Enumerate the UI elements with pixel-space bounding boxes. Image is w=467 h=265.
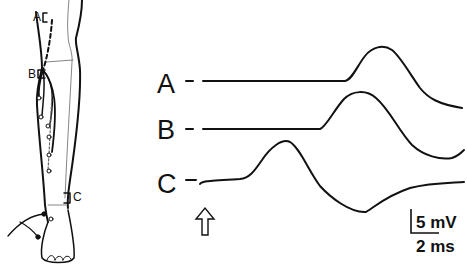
trace-a <box>186 47 462 108</box>
up-arrow-icon <box>196 208 214 235</box>
scale-time-label: 2 ms <box>416 238 455 255</box>
waveforms <box>0 0 467 265</box>
trace-b <box>186 92 464 158</box>
scale-amplitude-label: 5 mV <box>416 214 457 231</box>
